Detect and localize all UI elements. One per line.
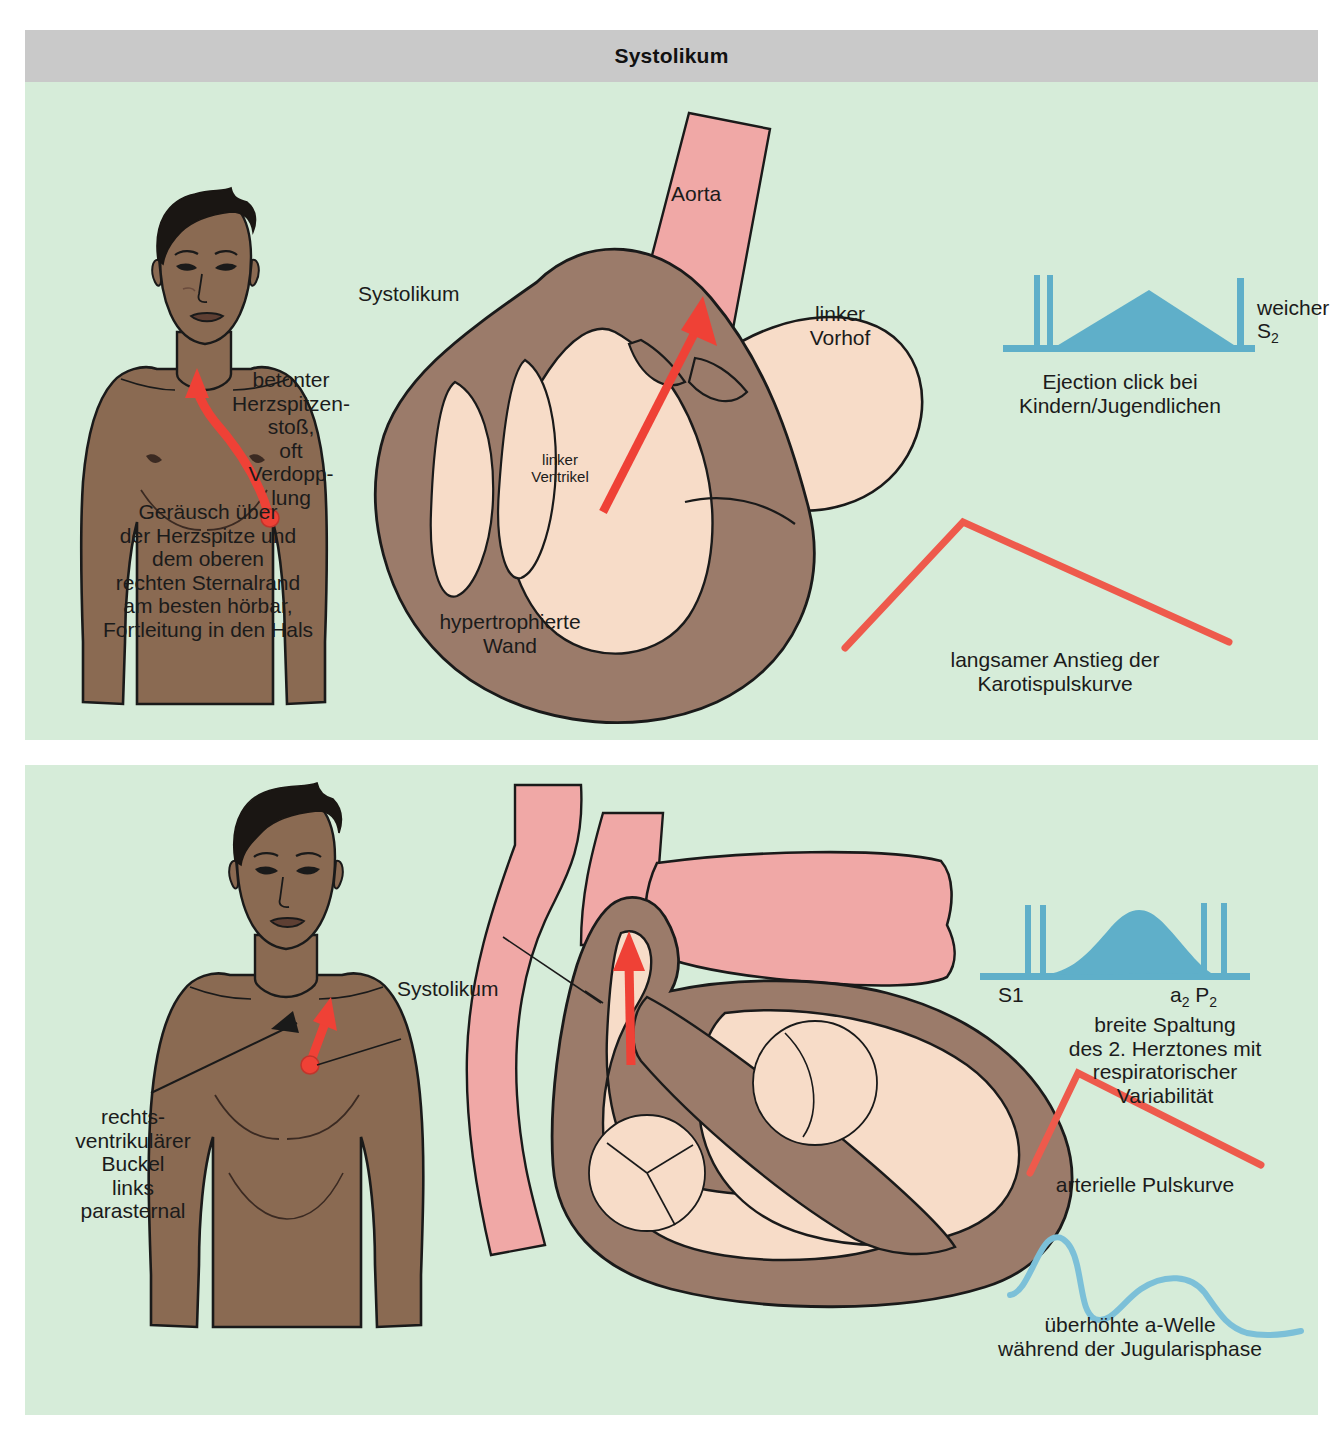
label-a2-p2: a2 P2 xyxy=(1170,983,1217,1011)
phono2-a2-spike xyxy=(1201,903,1207,975)
phono2-s1-spike-b xyxy=(1040,905,1046,975)
phono-s2-spike xyxy=(1237,278,1244,347)
label-soft-s2: weicher S2 xyxy=(1257,296,1329,347)
phono-systolic-murmur xyxy=(1055,290,1237,347)
ear-right xyxy=(250,260,259,286)
panel-aortic-stenosis: betonter Herzspitzen- stoß, oft Verdopp-… xyxy=(25,82,1318,740)
mitral-valve-circle xyxy=(753,1021,877,1145)
ear-left xyxy=(152,260,161,286)
label-p2: P xyxy=(1195,983,1209,1006)
carotid-pulse-line xyxy=(845,522,1229,648)
heave-point-marker xyxy=(301,1056,319,1074)
mouth xyxy=(191,313,223,321)
label-ejection-click-caption: Ejection click bei Kindern/Jugendlichen xyxy=(975,370,1265,417)
label-p2-subscript: 2 xyxy=(1209,994,1217,1010)
panel-pulmonary-stenosis: rechts- ventrikulärer Buckel links paras… xyxy=(25,765,1318,1415)
ear-right-2 xyxy=(334,861,343,889)
phono2-p2-spike xyxy=(1221,903,1227,975)
left-atrium-block xyxy=(645,852,955,985)
label-soft-s2-subscript: 2 xyxy=(1271,330,1279,346)
label-arterial-pulse-caption: arterielle Pulskurve xyxy=(1025,1173,1265,1197)
phono2-s1-spike-a xyxy=(1025,905,1031,975)
header-band: Systolikum xyxy=(25,30,1318,82)
label-left-atrium: linker Vorhof xyxy=(780,302,900,349)
carotid-pulse-curve xyxy=(845,522,1229,648)
phono2-systolic-murmur xyxy=(1041,910,1211,975)
label-jugular-caption: überhöhte a-Welle während der Jugularisp… xyxy=(970,1313,1290,1360)
page-title: Systolikum xyxy=(25,30,1318,82)
label-a2: a xyxy=(1170,983,1182,1006)
phonocardiogram-aortic-stenosis xyxy=(1003,275,1255,352)
label-s1: S1 xyxy=(998,983,1024,1007)
label-systolikum-2: Systolikum xyxy=(397,977,499,1001)
label-systolikum-heart-1: Systolikum xyxy=(358,282,460,306)
diagram-page: Systolikum xyxy=(0,0,1343,1452)
label-soft-s2-text: weicher S xyxy=(1257,296,1329,342)
label-carotid-pulse-caption: langsamer Anstieg der Karotispulskurve xyxy=(905,648,1205,695)
label-rv-heave: rechts- ventrikulärer Buckel links paras… xyxy=(33,1105,233,1223)
ear-left-2 xyxy=(229,861,238,889)
heart-diagram-pulmonary-stenosis xyxy=(467,785,1072,1307)
phono-s1-spike xyxy=(1034,275,1040,347)
patient-figure-2 xyxy=(149,783,424,1327)
phonocardiogram-pulmonary-stenosis xyxy=(980,903,1250,980)
pulmonary-flow-arrow-shaft xyxy=(629,963,631,1065)
label-auscultation: Geräusch über der Herzspitze und dem obe… xyxy=(65,500,351,641)
label-a2-subscript: 2 xyxy=(1182,994,1190,1010)
label-aorta: Aorta xyxy=(671,182,721,206)
phono-ejection-click-spike xyxy=(1047,275,1053,347)
label-apex-beat: betonter Herzspitzen- stoß, oft Verdopp-… xyxy=(211,368,371,509)
label-hypertrophied-wall: hypertrophierte Wand xyxy=(405,610,615,657)
label-left-ventricle: linker Ventrikel xyxy=(505,452,615,486)
label-wide-splitting-caption: breite Spaltung des 2. Herztones mit res… xyxy=(1045,1013,1285,1107)
